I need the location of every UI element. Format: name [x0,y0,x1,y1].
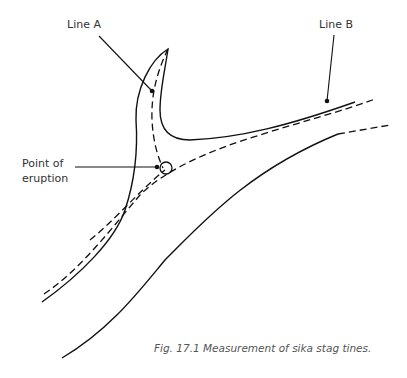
line-b-dashed [44,99,375,294]
line-b-label: Line B [319,18,353,31]
antler-lower-outline-dashed-end [338,125,390,134]
tine-diagram: Line A Line B Point of eruption Fig. 17.… [0,0,407,378]
figure-caption: Fig. 17.1 Measurement of sika stag tines… [154,342,371,354]
line-b-dot [325,99,330,104]
eruption-dot [155,165,160,170]
line-a-leader [99,36,152,91]
antler-upper-outline [42,49,355,302]
line-a-label: Line A [67,18,101,31]
line-b-dashed-lower [90,170,165,240]
eruption-circle [160,162,172,174]
eruption-label-line1: Point of [22,157,65,170]
line-a-dot [150,89,155,94]
line-b-leader [327,35,334,101]
eruption-label-line2: eruption [22,172,68,185]
